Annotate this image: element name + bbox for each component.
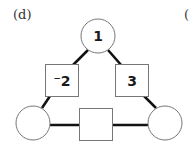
node-top-value: 1 [93,28,103,44]
edge-line-top-right [108,50,122,66]
edge-box-right: 3 [116,65,149,97]
edge-line-bottom-right [144,96,156,108]
node-top: 1 [81,19,115,53]
edge-left-value: ⁻2 [53,73,70,89]
edge-box-bottom [80,109,113,141]
arithmagon-figure: (d) ( 1 ⁻2 3 [0,0,189,156]
edge-right-value: 3 [127,73,137,89]
edge-box-left: ⁻2 [46,65,79,97]
triangle-diagram: 1 ⁻2 3 [0,0,189,156]
node-bottom-left [16,106,50,140]
edge-line-top-left [72,50,88,66]
node-bottom-right [148,106,182,140]
edge-line-bottom-left [42,96,50,108]
